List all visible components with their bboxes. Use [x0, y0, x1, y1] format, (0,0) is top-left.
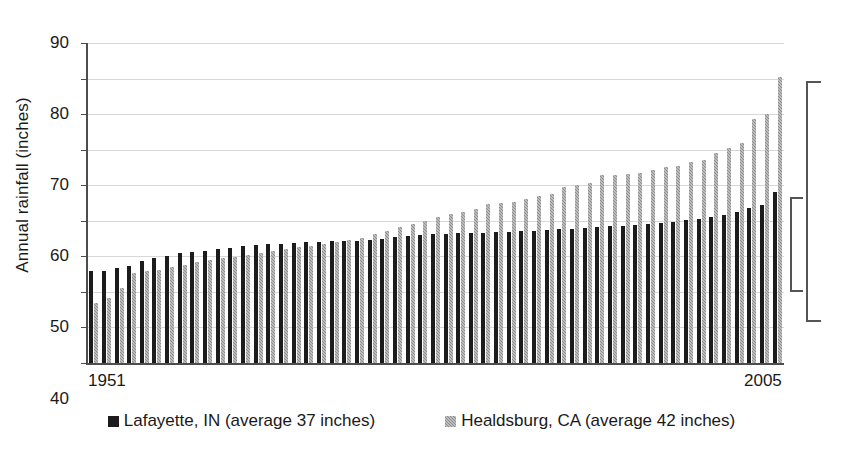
- bar: [689, 162, 693, 363]
- bar: [570, 229, 574, 363]
- bar: [145, 271, 149, 363]
- bar: [659, 223, 663, 363]
- bar: [322, 244, 326, 363]
- bar: [418, 235, 422, 363]
- bar: [132, 273, 136, 363]
- bar: [120, 288, 124, 363]
- bar: [304, 242, 308, 363]
- bar: [347, 240, 351, 363]
- legend-label-lafayette: Lafayette, IN (average 37 inches): [124, 411, 375, 431]
- bar: [297, 247, 301, 363]
- bar: [335, 242, 339, 363]
- bar: [385, 231, 389, 363]
- bar: [203, 251, 207, 363]
- lafayette-range-bracket: [790, 197, 803, 292]
- bar: [195, 262, 199, 363]
- y-axis-title: Annual rainfall (inches): [0, 0, 46, 370]
- y-axis-title-text: Annual rainfall (inches): [13, 97, 33, 272]
- bar: [456, 233, 460, 363]
- bar: [221, 258, 225, 363]
- bar: [684, 220, 688, 363]
- bar: [241, 246, 245, 363]
- bar: [279, 244, 283, 363]
- bar: [474, 209, 478, 363]
- bar: [317, 242, 321, 363]
- legend-item-lafayette: Lafayette, IN (average 37 inches): [108, 411, 375, 431]
- bar: [208, 260, 212, 363]
- bar: [752, 119, 756, 363]
- bar: [550, 194, 554, 363]
- bar: [486, 204, 490, 363]
- bar: [588, 183, 592, 363]
- bar: [608, 226, 612, 363]
- bar: [524, 199, 528, 363]
- bar: [292, 243, 296, 363]
- chart-legend: Lafayette, IN (average 37 inches) Healds…: [0, 404, 843, 438]
- bar: [532, 231, 536, 363]
- bar: [89, 271, 93, 363]
- bar: [702, 160, 706, 363]
- bar: [183, 265, 187, 363]
- bar: [342, 241, 346, 363]
- legend-swatch-healdsburg-icon: [445, 416, 456, 427]
- bar: [621, 226, 625, 363]
- bar: [494, 232, 498, 363]
- bar: [444, 234, 448, 363]
- bar: [613, 175, 617, 363]
- bar: [170, 267, 174, 363]
- bar: [266, 244, 270, 363]
- bar: [583, 228, 587, 363]
- bar: [228, 248, 232, 363]
- bar: [760, 205, 764, 363]
- bar: [664, 167, 668, 363]
- y-axis-tick-label: 70: [50, 175, 69, 195]
- bar: [651, 170, 655, 363]
- bar: [740, 143, 744, 363]
- x-axis-label-start: 1951: [88, 371, 126, 391]
- bar: [330, 241, 334, 363]
- bar: [152, 258, 156, 363]
- bar: [469, 233, 473, 363]
- bar: [233, 257, 237, 363]
- x-axis-line: [86, 363, 784, 365]
- bar: [107, 298, 111, 363]
- bar: [727, 148, 731, 363]
- bar: [178, 253, 182, 363]
- bar: [714, 153, 718, 363]
- bar: [157, 270, 161, 364]
- bar: [246, 255, 250, 363]
- bar: [406, 236, 410, 363]
- bar: [393, 237, 397, 363]
- bar: [595, 227, 599, 363]
- bar: [735, 212, 739, 363]
- bar: [368, 240, 372, 363]
- bar: [507, 232, 511, 363]
- bar: [449, 214, 453, 363]
- bar: [380, 239, 384, 363]
- legend-swatch-lafayette-icon: [108, 416, 119, 427]
- bars-layer: [88, 43, 784, 363]
- bar: [190, 252, 194, 363]
- y-axis-tick-label: 50: [50, 317, 69, 337]
- bar: [499, 203, 503, 363]
- bar: [676, 166, 680, 363]
- bar: [709, 217, 713, 363]
- bar: [423, 221, 427, 363]
- bar: [271, 251, 275, 363]
- bar: [355, 241, 359, 363]
- bar: [765, 114, 769, 363]
- bar: [773, 192, 777, 363]
- bar: [461, 212, 465, 363]
- bar: [102, 271, 106, 363]
- bar: [519, 231, 523, 363]
- bar: [481, 233, 485, 363]
- plot-area: 0102030405060708090: [88, 43, 784, 363]
- bar: [557, 229, 561, 363]
- legend-label-healdsburg: Healdsburg, CA (average 42 inches): [461, 411, 735, 431]
- bar: [626, 174, 630, 363]
- bar: [259, 253, 263, 363]
- healdsburg-range-bracket: [806, 81, 821, 322]
- bar: [398, 227, 402, 363]
- bar: [722, 215, 726, 363]
- bar: [537, 196, 541, 363]
